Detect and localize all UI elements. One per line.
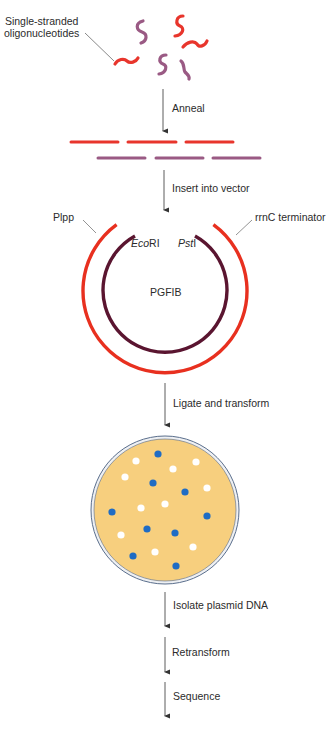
blue-colony: [108, 508, 115, 515]
promoter-label: Plpp: [53, 211, 74, 223]
blue-colony: [149, 479, 156, 486]
oligo-purple-3: [181, 61, 189, 79]
oligos-label-line1: Single-stranded: [4, 15, 79, 27]
step-ligate-label: Ligate and transform: [173, 397, 269, 409]
plasmid-name-label: PGFIB: [150, 286, 182, 298]
white-colony: [132, 457, 139, 464]
white-colony: [192, 458, 199, 465]
oligo-red-2: [183, 41, 207, 47]
white-colony: [121, 473, 128, 480]
oligo-red-3: [115, 58, 138, 64]
annealed-duplex: [71, 142, 260, 158]
oligo-purple-1: [137, 21, 146, 43]
white-colony: [189, 543, 196, 550]
terminator-label: rrnC terminator: [255, 211, 326, 223]
promoter-leader-line: [83, 220, 96, 233]
blue-colony: [172, 562, 179, 569]
oligonucleotides: [115, 16, 207, 79]
white-colony: [169, 465, 176, 472]
workflow-diagram: [0, 0, 331, 733]
white-colony: [203, 484, 210, 491]
psti-italic: Pst: [178, 237, 193, 249]
ecori-roman: RI: [149, 237, 160, 249]
psti-roman: I: [193, 237, 196, 249]
ecori-italic: Eco: [131, 237, 149, 249]
white-colony: [117, 531, 124, 538]
step-anneal-label: Anneal: [172, 102, 205, 114]
step-insert-label: Insert into vector: [172, 182, 250, 194]
blue-colony: [181, 488, 188, 495]
step-retransform-label: Retransform: [172, 646, 230, 658]
white-colony: [151, 548, 158, 555]
blue-colony: [143, 525, 150, 532]
oligo-purple-2: [159, 55, 166, 74]
oligo-red-1: [175, 16, 183, 36]
blue-colony: [203, 512, 210, 519]
blue-colony: [154, 450, 161, 457]
white-colony: [137, 504, 144, 511]
ecori-site-label: EcoRI: [131, 237, 160, 249]
blue-colony: [171, 529, 178, 536]
white-colony: [161, 500, 168, 507]
oligos-leader-line: [85, 33, 114, 61]
oligos-label: Single-stranded oligonucleotides: [4, 15, 79, 39]
step-sequence-label: Sequence: [173, 690, 220, 702]
step-isolate-label: Isolate plasmid DNA: [173, 599, 268, 611]
terminator-leader-line: [236, 220, 252, 235]
blue-colony: [129, 552, 136, 559]
psti-site-label: PstI: [178, 237, 196, 249]
oligos-label-line2: oligonucleotides: [4, 27, 79, 39]
